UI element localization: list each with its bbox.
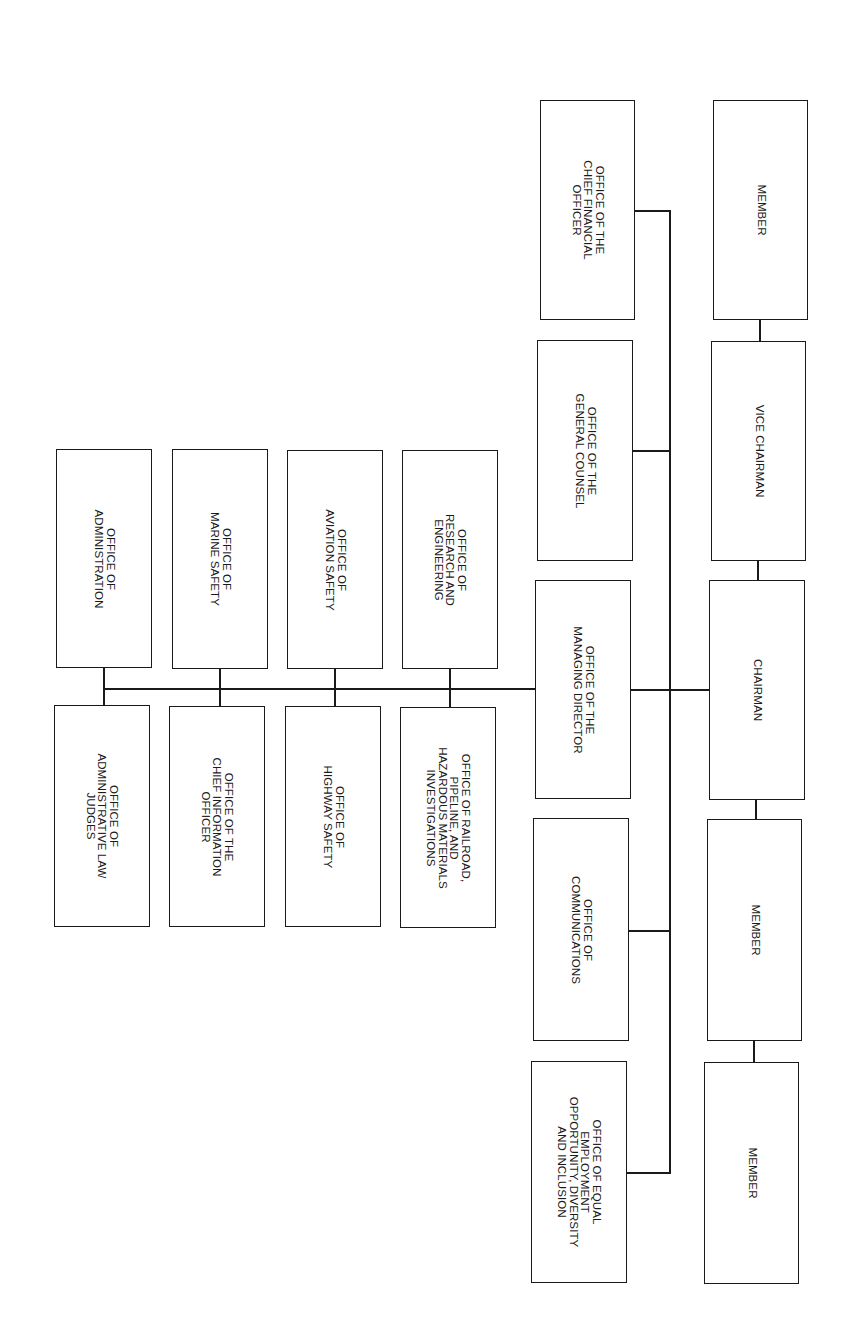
- org-box-member-mid: MEMBER: [707, 819, 802, 1041]
- connector-vice-to-chairman: [757, 561, 759, 580]
- org-box-label: OFFICE OF ADMINISTRATIVE LAW JUDGES: [85, 753, 120, 878]
- org-box-member-top: MEMBER: [713, 100, 808, 320]
- org-box-label: OFFICE OF RESEARCH AND ENGINEERING: [433, 514, 468, 606]
- org-box-marine-safety: OFFICE OF MARINE SAFETY: [172, 449, 268, 669]
- connector-md-office-bus: [103, 688, 535, 690]
- org-box-label: OFFICE OF HIGHWAY SAFETY: [322, 765, 345, 868]
- org-box-label: OFFICE OF ADMINISTRATION: [93, 509, 116, 608]
- connector-research-drop: [449, 669, 451, 707]
- org-box-administrative-law-judges: OFFICE OF ADMINISTRATIVE LAW JUDGES: [54, 705, 150, 927]
- connector-member-mid-to-bottom: [753, 1041, 755, 1062]
- org-box-administration: OFFICE OF ADMINISTRATION: [56, 449, 152, 668]
- org-box-label: MEMBER: [749, 904, 761, 955]
- connector-chairman-to-managing-director: [631, 689, 709, 691]
- org-box-chief-information-officer: OFFICE OF THE CHIEF INFORMATION OFFICER: [169, 706, 265, 927]
- org-box-equal-employment: OFFICE OF EQUAL EMPLOYMENT OPPORTUNITY, …: [531, 1061, 627, 1283]
- connector-spine-to-cfo: [635, 210, 671, 212]
- org-box-label: OFFICE OF MARINE SAFETY: [209, 512, 232, 606]
- org-box-research-engineering: OFFICE OF RESEARCH AND ENGINEERING: [402, 450, 498, 669]
- org-box-label: OFFICE OF THE GENERAL COUNSEL: [574, 393, 597, 508]
- org-box-label: OFFICE OF COMMUNICATIONS: [570, 876, 593, 984]
- org-box-general-counsel: OFFICE OF THE GENERAL COUNSEL: [537, 340, 633, 561]
- org-box-railroad-pipeline-hazmat: OFFICE OF RAILROAD, PIPELINE, AND HAZARD…: [400, 707, 496, 928]
- org-box-vice-chairman: VICE CHAIRMAN: [711, 341, 806, 561]
- org-box-label: OFFICE OF RAILROAD, PIPELINE, AND HAZARD…: [425, 747, 471, 889]
- connector-spine-to-communications: [629, 930, 669, 932]
- org-chart: MEMBERVICE CHAIRMANCHAIRMANMEMBERMEMBERO…: [0, 0, 863, 1326]
- org-box-label: VICE CHAIRMAN: [753, 405, 765, 498]
- org-box-highway-safety: OFFICE OF HIGHWAY SAFETY: [285, 706, 381, 927]
- org-box-label: OFFICE OF THE CHIEF INFORMATION OFFICER: [200, 757, 235, 876]
- org-box-label: MEMBER: [746, 1147, 758, 1198]
- connector-staff-spine: [669, 210, 671, 1174]
- connector-aviation-drop: [334, 669, 336, 706]
- org-box-chief-financial-officer: OFFICE OF THE CHIEF FINANCIAL OFFICER: [540, 100, 635, 320]
- org-box-member-bottom: MEMBER: [704, 1062, 799, 1284]
- org-box-label: OFFICE OF EQUAL EMPLOYMENT OPPORTUNITY, …: [556, 1097, 602, 1248]
- org-box-managing-director: OFFICE OF THE MANAGING DIRECTOR: [535, 580, 631, 799]
- org-box-communications: OFFICE OF COMMUNICATIONS: [533, 818, 629, 1041]
- org-box-label: OFFICE OF THE CHIEF FINANCIAL OFFICER: [570, 160, 605, 259]
- connector-administration-drop: [103, 668, 105, 705]
- org-box-label: CHAIRMAN: [751, 659, 763, 721]
- connector-chairman-to-member-mid: [755, 800, 757, 819]
- org-box-chairman: CHAIRMAN: [709, 580, 805, 800]
- connector-member-top-to-vice: [759, 320, 761, 341]
- connector-spine-to-equal-employment: [627, 1172, 671, 1174]
- org-box-aviation-safety: OFFICE OF AVIATION SAFETY: [287, 450, 383, 669]
- org-box-label: MEMBER: [755, 184, 767, 235]
- connector-spine-to-general-counsel: [633, 450, 670, 452]
- org-box-label: OFFICE OF THE MANAGING DIRECTOR: [572, 626, 595, 753]
- connector-marine-drop: [219, 669, 221, 706]
- org-box-label: OFFICE OF AVIATION SAFETY: [324, 509, 347, 610]
